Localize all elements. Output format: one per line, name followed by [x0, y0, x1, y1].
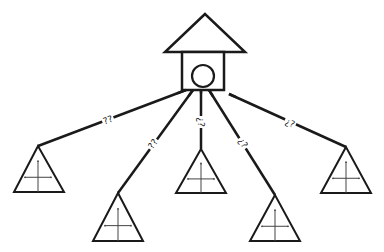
- cross-tip: [213, 178, 215, 180]
- cross-tip: [358, 177, 360, 179]
- edge-label-3: ¿?: [196, 116, 206, 128]
- edge-label-1: ??: [101, 113, 116, 127]
- cross-tip: [24, 176, 26, 178]
- hub-spoke-diagram: ????¿?¿?¿?: [0, 0, 384, 252]
- cross-tip: [345, 161, 347, 163]
- edge-start-1: [177, 90, 186, 93]
- svg-text:¿?: ¿?: [196, 117, 206, 127]
- house-window-circle: [192, 65, 214, 87]
- cross-tip: [200, 163, 202, 165]
- cross-tip: [104, 225, 106, 227]
- house-roof-icon: [165, 14, 245, 52]
- cross-tip: [50, 176, 52, 178]
- cross-tip: [332, 177, 334, 179]
- edge-start-5: [229, 94, 236, 97]
- cross-tip: [117, 208, 119, 210]
- cross-tip: [187, 178, 189, 180]
- cross-tip: [274, 209, 276, 211]
- diagram-canvas: ????¿?¿?¿?: [0, 0, 384, 252]
- cross-tip: [130, 225, 132, 227]
- cross-tip: [287, 225, 289, 227]
- cross-tip: [261, 225, 263, 227]
- cross-tip: [37, 160, 39, 162]
- triangle-node-1: [14, 146, 64, 192]
